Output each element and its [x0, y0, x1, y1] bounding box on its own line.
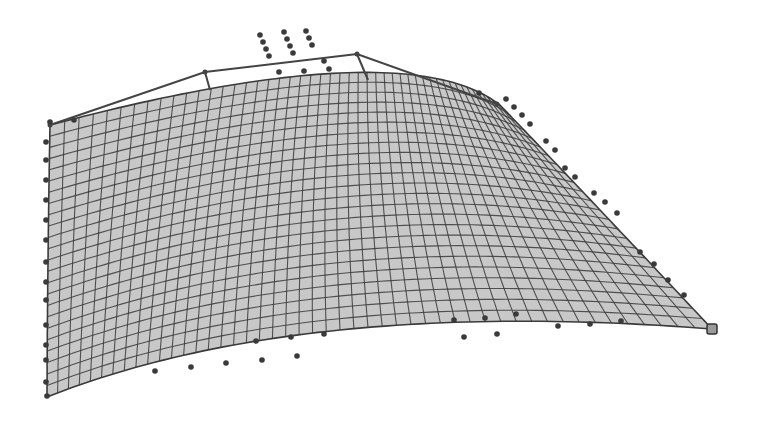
control-point: [476, 90, 482, 96]
control-point: [257, 32, 263, 38]
surface-canvas: [0, 0, 757, 426]
control-point: [43, 297, 49, 303]
control-point: [43, 157, 49, 163]
control-vertex: [203, 70, 208, 75]
control-point: [152, 368, 158, 374]
control-point: [494, 331, 500, 337]
control-point: [321, 331, 327, 337]
control-point: [482, 315, 488, 321]
control-point: [602, 199, 608, 205]
control-point: [260, 39, 266, 45]
control-point: [306, 35, 312, 41]
control-point: [301, 68, 307, 74]
control-point: [253, 338, 259, 344]
control-point: [43, 237, 49, 243]
control-point: [552, 147, 558, 153]
control-point: [44, 393, 50, 399]
control-point: [71, 117, 77, 123]
control-point: [294, 353, 300, 359]
control-point: [43, 322, 49, 328]
control-point: [309, 42, 315, 48]
control-point: [665, 277, 671, 283]
control-point: [43, 259, 49, 265]
control-point: [587, 321, 593, 327]
control-vertex: [495, 102, 500, 107]
control-point: [572, 174, 578, 180]
control-point: [290, 50, 296, 56]
control-point: [288, 334, 294, 340]
control-point: [43, 177, 49, 183]
control-point: [287, 43, 293, 49]
control-point: [43, 139, 49, 145]
control-point: [284, 36, 290, 42]
control-point: [321, 58, 327, 64]
control-point: [637, 249, 643, 255]
control-point: [562, 165, 568, 171]
control-point: [681, 292, 687, 298]
control-point: [223, 360, 229, 366]
control-point: [511, 104, 517, 110]
control-point: [527, 121, 533, 127]
control-point: [43, 342, 49, 348]
control-point: [543, 138, 549, 144]
control-point: [513, 311, 519, 317]
control-point: [451, 317, 457, 323]
control-point: [614, 210, 620, 216]
control-point: [326, 66, 332, 72]
control-point: [263, 46, 269, 52]
control-point: [651, 261, 657, 267]
control-point: [43, 379, 49, 385]
control-point: [503, 96, 509, 102]
control-point: [47, 119, 53, 125]
control-point: [188, 364, 194, 370]
control-point: [276, 69, 282, 75]
control-point: [43, 197, 49, 203]
control-point: [618, 318, 624, 324]
control-polygon-leg: [205, 72, 210, 90]
control-point: [519, 112, 525, 118]
control-point: [303, 28, 309, 34]
control-point: [43, 357, 49, 363]
control-point: [43, 279, 49, 285]
control-point: [266, 53, 272, 59]
corner-control-point: [707, 324, 717, 334]
surface-figure: [0, 0, 757, 426]
control-point: [591, 190, 597, 196]
control-point: [281, 29, 287, 35]
control-point: [555, 323, 561, 329]
control-point: [43, 217, 49, 223]
control-vertex: [355, 52, 360, 57]
control-point: [461, 334, 467, 340]
control-point: [259, 357, 265, 363]
